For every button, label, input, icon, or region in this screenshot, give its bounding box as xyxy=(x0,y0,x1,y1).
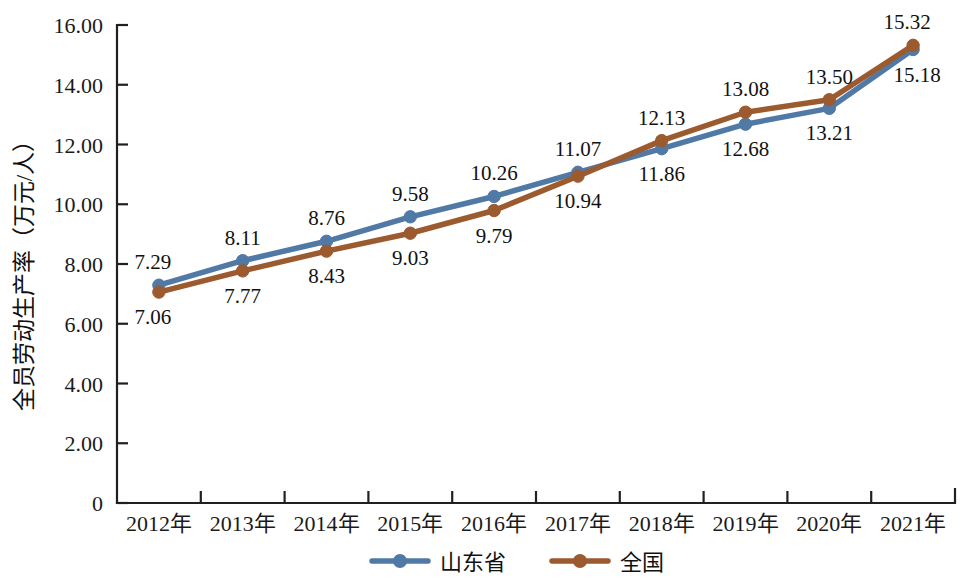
legend-label: 全国 xyxy=(620,550,664,575)
x-axis-tick-label: 2012年 xyxy=(126,511,192,536)
x-axis-tick-label: 2019年 xyxy=(713,511,779,536)
x-axis-tick-label: 2017年 xyxy=(545,511,611,536)
x-axis-tick-label: 2016年 xyxy=(461,511,527,536)
data-point-label: 13.50 xyxy=(806,65,853,89)
x-axis-tick-label: 2018年 xyxy=(629,511,695,536)
series-1 xyxy=(153,43,920,291)
data-point-label: 8.76 xyxy=(308,206,345,230)
data-point-label: 7.77 xyxy=(224,284,261,308)
data-point-marker xyxy=(656,134,668,146)
y-axis-title: 全员劳动生产率（万元/人） xyxy=(12,129,37,411)
y-axis-tick-label: 8.00 xyxy=(65,252,104,277)
data-point-label: 11.07 xyxy=(555,137,601,161)
y-axis-tick-label: 2.00 xyxy=(65,431,104,456)
y-axis-tick-labels: 16.0014.0012.0010.008.006.004.002.000 xyxy=(54,13,104,516)
data-point-marker xyxy=(153,286,165,298)
x-axis-tick-label: 2015年 xyxy=(377,511,443,536)
x-axis-tick-label: 2021年 xyxy=(880,511,946,536)
legend-swatch-marker xyxy=(393,554,407,568)
x-axis-tick-labels: 2012年2013年2014年2015年2016年2017年2018年2019年… xyxy=(126,511,946,536)
chart-canvas: 全员劳动生产率（万元/人） 16.0014.0012.0010.008.006.… xyxy=(0,0,962,578)
data-point-marker xyxy=(404,211,416,223)
data-point-label: 7.06 xyxy=(135,305,172,329)
x-axis-ticks xyxy=(201,491,871,503)
data-point-label: 15.32 xyxy=(883,10,930,34)
chart-legend: 山东省全国 xyxy=(372,550,664,575)
y-axis-tick-label: 0 xyxy=(92,491,103,516)
data-point-label: 13.21 xyxy=(806,121,853,145)
data-point-label: 11.86 xyxy=(638,162,684,186)
data-point-marker xyxy=(488,204,500,216)
legend-item-2[interactable]: 全国 xyxy=(552,550,664,575)
legend-label: 山东省 xyxy=(440,550,506,575)
y-axis-ticks xyxy=(117,25,128,503)
data-point-label: 7.29 xyxy=(135,250,172,274)
series-line xyxy=(159,50,913,286)
data-point-marker xyxy=(320,245,332,257)
y-axis-tick-label: 16.00 xyxy=(54,13,104,38)
data-point-label: 12.68 xyxy=(722,137,769,161)
y-axis-tick-label: 12.00 xyxy=(54,133,104,158)
x-axis-tick-label: 2020年 xyxy=(796,511,862,536)
data-point-marker xyxy=(739,118,751,130)
y-axis-tick-label: 6.00 xyxy=(65,312,104,337)
x-axis-tick-label: 2013年 xyxy=(210,511,276,536)
y-axis-tick-label: 14.00 xyxy=(54,73,104,98)
data-point-label: 9.03 xyxy=(392,246,429,270)
data-point-label: 8.43 xyxy=(308,264,345,288)
legend-swatch-marker xyxy=(573,554,587,568)
data-point-label: 9.58 xyxy=(392,182,429,206)
data-point-marker xyxy=(572,170,584,182)
legend-item-1[interactable]: 山东省 xyxy=(372,550,506,575)
data-point-label: 12.13 xyxy=(638,106,685,130)
data-point-marker xyxy=(488,190,500,202)
y-axis-tick-label: 4.00 xyxy=(65,372,104,397)
data-point-label: 10.26 xyxy=(470,161,517,185)
data-point-marker xyxy=(404,227,416,239)
series-2 xyxy=(153,39,920,298)
data-point-label: 10.94 xyxy=(554,189,602,213)
data-point-label: 8.11 xyxy=(225,226,261,250)
data-point-marker xyxy=(237,265,249,277)
y-axis-tick-label: 10.00 xyxy=(54,192,104,217)
data-point-labels: 7.298.118.769.5810.2611.0711.8612.6813.2… xyxy=(135,10,941,329)
data-point-label: 15.18 xyxy=(893,63,940,87)
data-point-label: 9.79 xyxy=(476,224,513,248)
data-point-marker xyxy=(823,93,835,105)
data-point-marker xyxy=(907,39,919,51)
x-axis-tick-label: 2014年 xyxy=(294,511,360,536)
line-chart: 全员劳动生产率（万元/人） 16.0014.0012.0010.008.006.… xyxy=(0,0,962,578)
data-point-label: 13.08 xyxy=(722,77,769,101)
data-point-marker xyxy=(739,106,751,118)
series-group xyxy=(153,39,920,298)
